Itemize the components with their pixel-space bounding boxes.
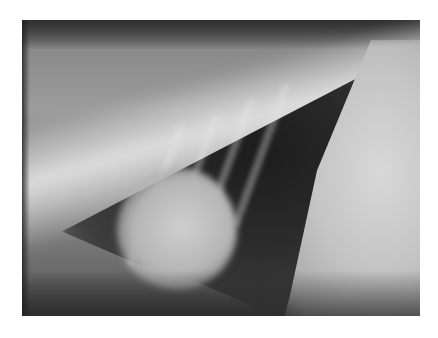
sternum-shadow xyxy=(22,270,420,316)
radiograph-image xyxy=(22,20,420,316)
left-edge-shadow xyxy=(22,20,30,316)
